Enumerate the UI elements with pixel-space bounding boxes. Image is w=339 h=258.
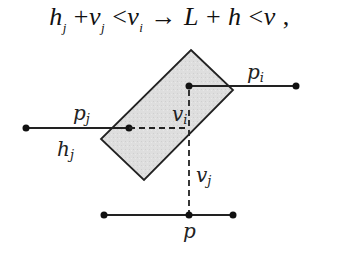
- p-i-inner-dot: [186, 83, 193, 90]
- label-p: p: [183, 219, 196, 243]
- p-j-end-dot: [23, 125, 30, 132]
- label-p-i: pi: [247, 60, 264, 85]
- p-i-end-dot: [293, 83, 300, 90]
- diagram: pi pj hj vi vj p: [0, 0, 339, 258]
- label-p-j: pj: [73, 101, 90, 126]
- rotated-box: [101, 50, 233, 180]
- label-v-j: vj: [196, 163, 211, 188]
- label-h-j: hj: [57, 137, 74, 162]
- p-right-dot: [230, 212, 237, 219]
- p-mid-dot: [186, 212, 193, 219]
- p-left-dot: [101, 212, 108, 219]
